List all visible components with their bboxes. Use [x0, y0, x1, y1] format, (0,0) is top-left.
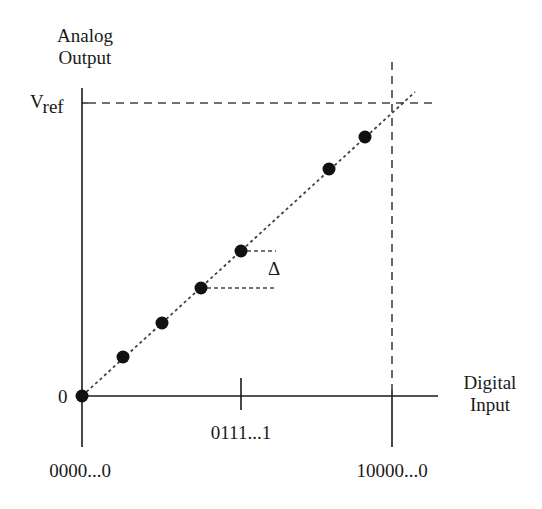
data-point	[359, 131, 372, 144]
x-axis-label-line2: Input	[445, 394, 535, 416]
data-point	[117, 351, 130, 364]
origin-code-label: 0000...0	[30, 460, 130, 482]
data-point	[76, 390, 89, 403]
data-point	[323, 163, 336, 176]
data-point	[235, 245, 248, 258]
y-axis-label: Analog Output	[50, 25, 120, 69]
zero-label: 0	[58, 386, 68, 408]
data-point	[156, 317, 169, 330]
x-axis-label-line1: Digital	[445, 372, 535, 394]
data-points	[76, 131, 372, 403]
vref-label: Vref	[30, 91, 64, 113]
delta-label: Δ	[268, 258, 280, 280]
y-axis-label-line2: Output	[50, 47, 120, 69]
full-scale-label: 10000...0	[332, 460, 452, 482]
mid-scale-label: 0111...1	[191, 422, 291, 444]
vref-subscript: ref	[43, 96, 64, 117]
y-axis-label-line1: Analog	[50, 25, 120, 47]
data-point	[195, 282, 208, 295]
vref-main: V	[30, 91, 43, 112]
x-axis-label: Digital Input	[445, 372, 535, 416]
